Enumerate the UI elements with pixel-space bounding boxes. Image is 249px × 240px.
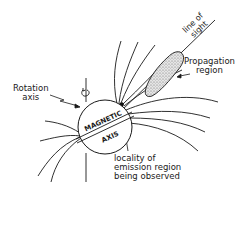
propagation-region-shape bbox=[145, 52, 183, 97]
emission-locality-label-line3: being observed bbox=[114, 172, 181, 181]
rotation-axis-label: Rotation axis bbox=[13, 84, 49, 102]
rotation-axis-label-line2: axis bbox=[13, 93, 49, 102]
emission-locality-label: locality of emission region being observ… bbox=[114, 154, 181, 181]
propagation-region-label-line2: region bbox=[184, 66, 235, 75]
rotation-pointer-arrow bbox=[50, 95, 80, 108]
propagation-region-label: Propagation region bbox=[184, 57, 235, 75]
